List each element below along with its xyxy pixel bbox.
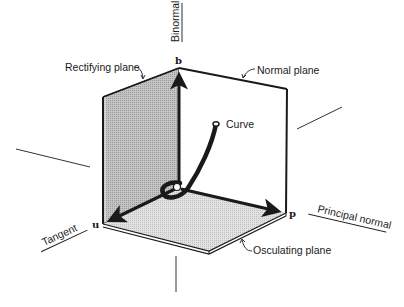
origin-point [174, 184, 181, 191]
binormal-axis-label: Binormal [169, 1, 181, 42]
principal-normal-axis-label: Principal normal [317, 202, 393, 231]
osculating-plane-leader [242, 240, 252, 251]
rectifying-plane-label: Rectifying plane [65, 61, 140, 73]
curve-label: Curve [226, 118, 254, 130]
normal-extension-line [297, 107, 342, 129]
binormal-vector-label: b [175, 55, 182, 66]
trihedron-diagram: b u p Binormal Tangent Principal normal … [0, 0, 404, 307]
tangent-axis-label: Tangent [40, 221, 79, 248]
osculating-plane-label: Osculating plane [253, 244, 331, 256]
principal-normal-vector-label: p [289, 208, 296, 219]
tangent-vector-label: u [92, 219, 99, 230]
normal-plane-label: Normal plane [257, 64, 320, 76]
tangent-extension-line [16, 149, 90, 167]
